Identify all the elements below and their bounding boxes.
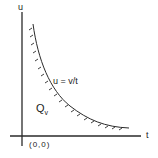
x-axis-label: t xyxy=(146,131,149,140)
y-axis-label: u xyxy=(18,3,23,12)
region-label: Qv xyxy=(36,103,48,116)
diagram-canvas xyxy=(0,0,158,158)
region-label-subscript: v xyxy=(45,109,49,116)
region-label-main: Q xyxy=(36,102,45,114)
origin-label: (0,0) xyxy=(29,141,50,149)
curve-label: u = v/t xyxy=(53,77,78,86)
